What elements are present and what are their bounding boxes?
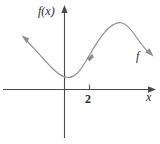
function-graph-figure: f(x) x f 2 (0, 0, 160, 144)
x-axis-label: x (146, 91, 151, 103)
graph-canvas (0, 0, 160, 144)
y-axis-arrowhead-icon (61, 5, 67, 13)
curve-label-f: f (136, 50, 139, 62)
x-tick-label-2: 2 (85, 93, 91, 105)
curve-path (26, 23, 150, 78)
curve-mid-direction-marker-icon (88, 54, 94, 62)
x-axis (3, 86, 156, 92)
function-curve-f (22, 23, 154, 78)
y-axis (61, 5, 67, 138)
y-axis-label: f(x) (38, 5, 55, 17)
